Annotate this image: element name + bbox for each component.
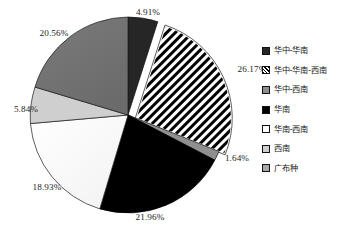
legend-item-huanan[interactable]: 华南 — [262, 100, 361, 120]
pie-label-huanan-xinan: 18.93% — [33, 182, 62, 192]
pie-label-xinan: 5.84% — [14, 104, 38, 114]
legend-label-huazhong-huanan: 华中-华南 — [274, 46, 308, 55]
pie-label-guangbuzhong: 20.56% — [40, 28, 69, 38]
chart-legend: 华中-华南 华中-华南-西南 华中-西南 华南 华南-西南 西南 广布种 — [262, 41, 361, 178]
legend-item-huazhong-huanan-xinan[interactable]: 华中-华南-西南 — [262, 61, 361, 81]
legend-label-xinan: 西南 — [274, 144, 290, 153]
legend-label-huazhong-huanan-xinan: 华中-华南-西南 — [274, 66, 327, 75]
swatch-huazhong-huanan — [262, 47, 270, 55]
swatch-huazhong-huanan-xinan — [262, 66, 270, 74]
legend-label-huanan-xinan: 华南-西南 — [274, 125, 308, 134]
pie-chart-figure: 4.91% 26.17% 1.64% 21.96% 18.93% 5.84% 2… — [0, 0, 361, 229]
legend-label-guangbuzhong: 广布种 — [274, 164, 298, 173]
legend-item-huazhong-huanan[interactable]: 华中-华南 — [262, 41, 361, 61]
pie-label-huanan: 21.96% — [136, 212, 165, 222]
swatch-xinan — [262, 145, 270, 153]
swatch-huazhong-xinan — [262, 86, 270, 94]
swatch-guangbuzhong — [262, 164, 270, 172]
legend-item-guangbuzhong[interactable]: 广布种 — [262, 159, 361, 179]
legend-label-huazhong-xinan: 华中-西南 — [274, 85, 308, 94]
pie-label-huazhong-xinan: 1.64% — [225, 153, 249, 163]
pie-label-huazhong-huanan: 4.91% — [136, 7, 160, 17]
legend-item-huazhong-xinan[interactable]: 华中-西南 — [262, 80, 361, 100]
legend-item-xinan[interactable]: 西南 — [262, 139, 361, 159]
swatch-huanan-xinan — [262, 125, 270, 133]
legend-item-huanan-xinan[interactable]: 华南-西南 — [262, 119, 361, 139]
swatch-huanan — [262, 106, 270, 114]
legend-label-huanan: 华南 — [274, 105, 290, 114]
